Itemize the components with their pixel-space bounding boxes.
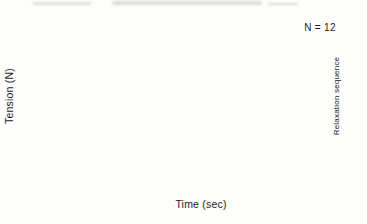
- relaxation-tension-chart-figure: Tension (N) Time (sec) N = 12 Relaxation…: [0, 0, 367, 224]
- sample-size-annotation: N = 12: [304, 22, 336, 33]
- chart-canvas: Tension (N) Time (sec) N = 12 Relaxation…: [0, 0, 367, 224]
- x-axis-title: Time (sec): [175, 198, 226, 210]
- scan-artifact: [112, 1, 262, 5]
- y-axis-title: Tension (N): [3, 68, 15, 124]
- scan-artifact: [33, 2, 91, 5]
- scan-artifact: [268, 3, 298, 5]
- right-axis-title: Relaxation sequence: [332, 56, 341, 135]
